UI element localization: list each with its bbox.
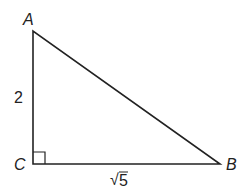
vertex-label-b: B <box>226 156 237 173</box>
right-angle-marker <box>33 152 45 164</box>
triangle-abc <box>33 31 220 164</box>
side-label-cb: √ 5 <box>110 171 128 189</box>
triangle-diagram: A C B 2 √ 5 <box>0 0 250 194</box>
sqrt-radicand: 5 <box>119 172 128 189</box>
side-label-ac: 2 <box>14 89 23 106</box>
sqrt-symbol: √ <box>110 171 119 188</box>
vertex-label-a: A <box>22 11 34 28</box>
vertex-label-c: C <box>14 156 26 173</box>
